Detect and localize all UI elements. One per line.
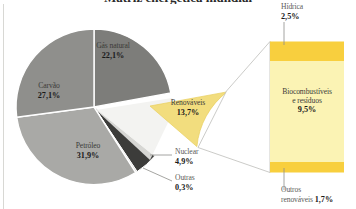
pie-label-nuclear-name: Nuclear <box>175 147 198 156</box>
pie-label-gas-natural: Gás natural 22,1% <box>76 42 150 60</box>
pie-label-renovaveis-value: 13,7% <box>152 108 224 117</box>
bar-label-outros-renovaveis-name-line1: Outros <box>281 185 301 194</box>
bar-label-outros-renovaveis: Outros renováveis 1,7% <box>281 186 333 204</box>
pie-label-carvao-name: Carvão <box>38 81 59 90</box>
bar-label-biocombustiveis-name-line2: e resíduos <box>292 96 322 105</box>
pie-label-carvao-value: 27,1% <box>16 91 82 100</box>
bar-label-outros-renovaveis-name-line2: renováveis <box>281 195 313 204</box>
pie-label-petroleo-value: 31,9% <box>55 151 121 160</box>
pie-label-carvao: Carvão 27,1% <box>16 82 82 100</box>
bar-label-hidrica-name: Hídrica <box>281 2 303 11</box>
pie-label-petroleo: Petróleo 31,9% <box>55 142 121 160</box>
bar-label-hidrica: Hídrica 2,5% <box>281 3 303 21</box>
bar-segment-hidrica <box>270 42 344 62</box>
pie-label-gas-natural-name: Gás natural <box>96 41 130 50</box>
pie-label-gas-natural-value: 22,1% <box>76 51 150 60</box>
pie-label-outras: Outras 0,3% <box>175 174 195 192</box>
pie-label-renovaveis-name: Renováveis <box>171 98 205 107</box>
pie-label-outras-value: 0,3% <box>175 183 195 192</box>
pie-label-nuclear: Nuclear 4,9% <box>175 148 198 166</box>
bar-label-outros-renovaveis-value: 1,7% <box>315 195 333 204</box>
energy-matrix-figure: Matriz energética mundial <box>0 0 356 209</box>
pie-label-petroleo-name: Petróleo <box>76 141 101 150</box>
bar-segment-outros-renovaveis <box>270 162 344 173</box>
leader-line-outras <box>143 168 172 181</box>
bar-label-biocombustiveis: Biocombustíveis e resíduos 9,5% <box>274 88 340 114</box>
pie-label-outras-name: Outras <box>175 173 195 182</box>
bar-label-hidrica-value: 2,5% <box>281 12 303 21</box>
bar-label-biocombustiveis-value: 9,5% <box>274 105 340 114</box>
pie-label-renovaveis: Renováveis 13,7% <box>152 99 224 117</box>
pie-label-nuclear-value: 4,9% <box>175 157 198 166</box>
